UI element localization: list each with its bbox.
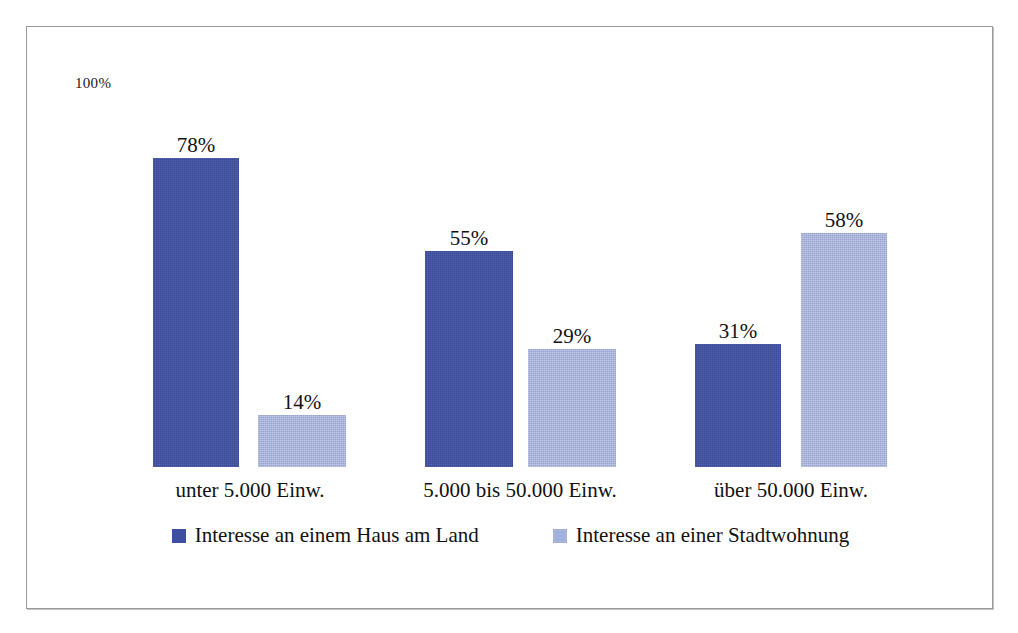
chart-figure: 100% 78% 14% unter 5.000 Einw. 55% 29% 5…: [0, 0, 1018, 633]
bar-value-g3-s1: 31%: [695, 319, 781, 344]
legend-item-stadtwohnung[interactable]: Interesse an einer Stadtwohnung: [553, 523, 850, 548]
bar-value-g1-s1: 78%: [153, 133, 239, 158]
legend-label-stadtwohnung: Interesse an einer Stadtwohnung: [576, 523, 850, 548]
bar-g2-s1: [425, 251, 513, 467]
bar-g1-s1: [153, 158, 239, 467]
legend-label-haus-am-land: Interesse an einem Haus am Land: [195, 523, 479, 548]
bar-g1-s2: [258, 415, 346, 467]
bar-value-g2-s2: 29%: [528, 324, 616, 349]
bar-value-g1-s2: 14%: [258, 390, 346, 415]
bar-g3-s1: [695, 344, 781, 467]
bar-g3-s2: [801, 233, 887, 467]
plot-area: 100% 78% 14% unter 5.000 Einw. 55% 29% 5…: [27, 27, 994, 610]
legend-item-haus-am-land[interactable]: Interesse an einem Haus am Land: [172, 523, 479, 548]
bar-value-g2-s1: 55%: [425, 226, 513, 251]
bar-g2-s2: [528, 349, 616, 467]
chart-frame: 100% 78% 14% unter 5.000 Einw. 55% 29% 5…: [26, 26, 993, 609]
category-label-2: über 50.000 Einw.: [646, 478, 936, 503]
category-label-0: unter 5.000 Einw.: [105, 478, 395, 503]
category-label-1: 5.000 bis 50.000 Einw.: [375, 478, 665, 503]
legend-swatch-icon-dark: [172, 529, 186, 543]
chart-legend: Interesse an einem Haus am Land Interess…: [27, 523, 994, 548]
bar-value-g3-s2: 58%: [801, 208, 887, 233]
axis-max-label: 100%: [75, 75, 111, 92]
legend-swatch-icon-light: [553, 529, 567, 543]
